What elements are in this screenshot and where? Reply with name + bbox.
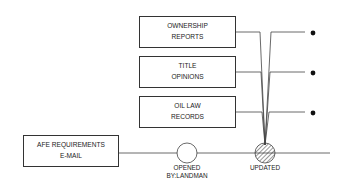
- box-label: OPINIONS: [171, 72, 203, 83]
- ownership-reports-box: OWNERSHIP REPORTS: [139, 16, 236, 48]
- opened-label-line2: BY:LANDMAN: [162, 172, 212, 180]
- bullet-icon: [311, 111, 316, 116]
- connector-ownership: [236, 32, 265, 145]
- box-label: E-MAIL: [60, 151, 82, 162]
- updated-label: UPDATED: [240, 164, 290, 172]
- box-label: OIL LAW: [174, 101, 200, 112]
- output-line-1: [265, 32, 305, 145]
- box-label: AFE REQUIREMENTS: [37, 140, 105, 151]
- afe-requirements-box: AFE REQUIREMENTS E-MAIL: [23, 135, 119, 167]
- box-label: RECORDS: [171, 112, 204, 123]
- opened-node-icon: [177, 143, 197, 163]
- box-label: REPORTS: [172, 32, 204, 43]
- box-label: OWNERSHIP: [167, 21, 208, 32]
- title-opinions-box: TITLE OPINIONS: [139, 56, 236, 88]
- opened-label: OPENED BY:LANDMAN: [162, 164, 212, 180]
- output-line-2: [265, 72, 305, 145]
- bullet-icon: [311, 71, 316, 76]
- box-label: TITLE: [179, 61, 197, 72]
- connector-oillaw: [236, 112, 265, 145]
- opened-label-line1: OPENED: [162, 164, 212, 172]
- output-line-3: [265, 112, 305, 145]
- updated-node-icon: [255, 143, 275, 163]
- bullet-icon: [311, 31, 316, 36]
- updated-label-line1: UPDATED: [240, 164, 290, 172]
- connector-title: [236, 72, 265, 145]
- oil-law-records-box: OIL LAW RECORDS: [139, 96, 236, 128]
